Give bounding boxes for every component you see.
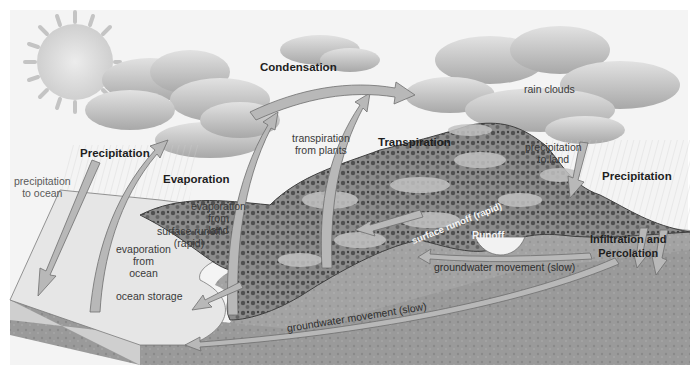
label-transp-plants-line2: from plants (292, 144, 350, 156)
label-infiltration-line2: Percolation (590, 246, 666, 260)
label-precip-land-line2: to land (525, 153, 582, 165)
label-evap-land-line2: from (191, 212, 246, 224)
label-evap-ocean-line2: from (116, 255, 171, 267)
label-precipitation-right: Precipitation (602, 170, 672, 182)
label-runoff: Runoff (472, 230, 504, 242)
label-rain-clouds: rain clouds (524, 83, 575, 95)
label-precipitation-to-ocean: precipitation to ocean (14, 175, 71, 199)
label-transpiration: Transpiration (378, 136, 451, 148)
label-precipitation-left: Precipitation (80, 147, 150, 159)
label-surface-runoff-line1: surface runoff (157, 225, 221, 237)
water-cycle-diagram: Condensation rain clouds Precipitation p… (0, 0, 694, 375)
label-precipitation-to-land: precipitation to land (525, 141, 582, 165)
label-precipitation-to-ocean-line1: precipitation (14, 175, 71, 187)
label-infiltration-line1: Infiltration and (590, 232, 666, 246)
label-infiltration-percolation: Infiltration and Percolation (590, 232, 666, 260)
label-evaporation: Evaporation (163, 173, 229, 185)
label-evap-land-line1: evaporation (191, 200, 246, 212)
label-ocean-storage: ocean storage (116, 290, 183, 302)
label-precip-land-line1: precipitation (525, 141, 582, 153)
label-transpiration-from-plants: transpiration from plants (292, 132, 350, 156)
label-transp-plants-line1: transpiration (292, 132, 350, 144)
label-surface-runoff-line2: (rapid) (157, 237, 221, 249)
label-precipitation-to-ocean-line2: to ocean (14, 187, 71, 199)
label-surface-runoff-ocean: surface runoff (rapid) (157, 225, 221, 249)
label-groundwater-upper: groundwater movement (slow) (434, 261, 575, 273)
label-evap-ocean-line3: ocean (116, 267, 171, 279)
label-condensation: Condensation (260, 61, 337, 73)
